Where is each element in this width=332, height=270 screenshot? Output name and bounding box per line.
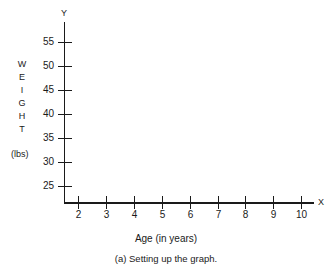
y-axis-end-letter: Y <box>61 9 67 18</box>
x-tick-label-10: 10 <box>290 210 314 220</box>
x-tick-label-7: 7 <box>207 210 231 220</box>
y-axis-title: W E I G H T <box>14 58 30 136</box>
y-axis-title-char-5: T <box>14 123 30 136</box>
x-tick-label-6: 6 <box>179 210 203 220</box>
y-tick-label-55: 55 <box>32 37 54 47</box>
y-axis-units-label: (lbs) <box>11 150 29 159</box>
y-axis-title-char-4: H <box>14 110 30 123</box>
y-tick-label-35: 35 <box>32 133 54 143</box>
x-tick-label-4: 4 <box>123 210 147 220</box>
x-axis-end-letter: X <box>318 198 324 207</box>
x-tick-label-8: 8 <box>234 210 258 220</box>
y-tick-label-45: 45 <box>32 85 54 95</box>
x-tick-label-2: 2 <box>67 210 91 220</box>
y-axis-title-char-3: G <box>14 97 30 110</box>
y-axis-title-char-2: I <box>14 84 30 97</box>
x-tick-label-3: 3 <box>95 210 119 220</box>
y-tick-label-50: 50 <box>32 61 54 71</box>
x-tick-label-9: 9 <box>262 210 286 220</box>
x-axis-title: Age (in years) <box>0 234 332 244</box>
y-axis-title-char-1: E <box>14 71 30 84</box>
figure-container: Y X 55 50 45 40 35 30 25 2 3 4 5 6 7 8 9… <box>0 0 332 270</box>
figure-caption: (a) Setting up the graph. <box>0 254 332 264</box>
x-tick-label-5: 5 <box>151 210 175 220</box>
y-tick-label-40: 40 <box>32 109 54 119</box>
y-tick-label-30: 30 <box>32 157 54 167</box>
y-axis-title-char-0: W <box>14 58 30 71</box>
y-tick-label-25: 25 <box>32 181 54 191</box>
